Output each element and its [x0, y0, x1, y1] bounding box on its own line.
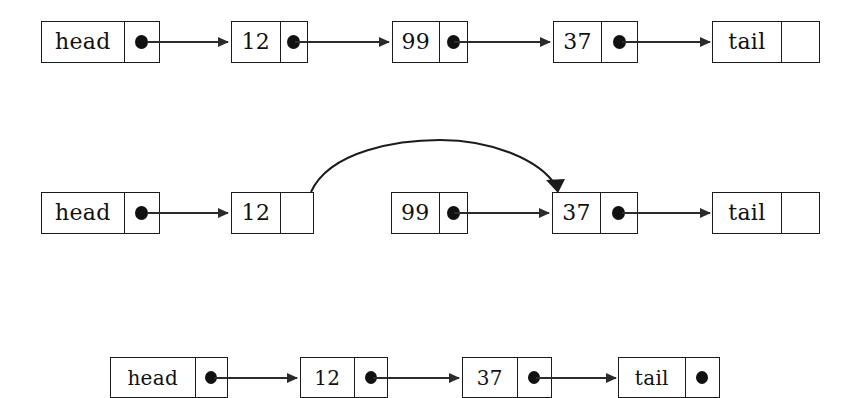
- node-37-label: 37: [563, 31, 592, 53]
- node-99-value-cell: 99: [392, 193, 440, 233]
- node-12-value-cell: 12: [301, 358, 355, 397]
- tail-node-value-cell: tail: [713, 193, 782, 233]
- link-head-to-12: [214, 377, 297, 379]
- link-12-to-37: [373, 377, 459, 379]
- head-node-label: head: [127, 368, 178, 388]
- head-node: head: [110, 357, 228, 398]
- node-37-label: 37: [477, 368, 503, 388]
- node-12: 12: [231, 192, 314, 234]
- link-head-to-12: [147, 41, 228, 43]
- tail-node-pointer-cell: [782, 22, 819, 62]
- link-37-to-tail: [622, 41, 710, 43]
- link-37-to-tail: [622, 212, 710, 214]
- node-12-label: 12: [314, 368, 340, 388]
- tail-node-value-cell: tail: [619, 358, 686, 397]
- link-37-to-tail: [536, 377, 616, 379]
- node-12-pointer-cell: [281, 193, 313, 233]
- head-node: head: [41, 21, 160, 63]
- tail-node-pointer-cell: [686, 358, 719, 397]
- tail-node: tail: [618, 357, 720, 398]
- tail-node-label: tail: [728, 202, 765, 224]
- node-99-label: 99: [401, 202, 430, 224]
- curved-link-path: [311, 140, 556, 192]
- link-99-to-37: [454, 41, 550, 43]
- tail-node-label: tail: [728, 31, 765, 53]
- node-99-label: 99: [402, 31, 431, 53]
- node-12-label: 12: [242, 31, 271, 53]
- node-37-value-cell: 37: [554, 22, 602, 62]
- link-12-to-99: [295, 41, 389, 43]
- node-37-label: 37: [562, 202, 591, 224]
- node-12-value-cell: 12: [232, 22, 281, 62]
- null-pointer-icon: [696, 371, 708, 384]
- head-node-value-cell: head: [42, 22, 125, 62]
- tail-node-pointer-cell: [782, 193, 819, 233]
- tail-node-label: tail: [635, 368, 669, 388]
- head-node-value-cell: head: [42, 193, 125, 233]
- link-99-to-37: [454, 212, 549, 214]
- node-37-value-cell: 37: [553, 193, 601, 233]
- tail-node: tail: [712, 21, 820, 63]
- node-37-value-cell: 37: [463, 358, 518, 397]
- head-node-label: head: [55, 202, 111, 224]
- head-node: head: [41, 192, 160, 234]
- tail-node: tail: [712, 192, 820, 234]
- head-node-label: head: [55, 31, 111, 53]
- head-node-value-cell: head: [111, 358, 196, 397]
- node-12-value-cell: 12: [232, 193, 281, 233]
- node-99-value-cell: 99: [393, 22, 440, 62]
- curved-link-arrowhead: [546, 179, 565, 193]
- node-12-label: 12: [242, 202, 271, 224]
- link-head-to-12: [147, 212, 228, 214]
- tail-node-value-cell: tail: [713, 22, 782, 62]
